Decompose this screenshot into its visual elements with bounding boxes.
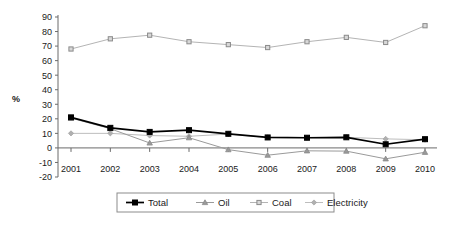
y-tick-label: -20 [39,172,52,182]
data-point-marker [133,200,138,205]
data-point-marker [305,135,310,140]
x-tick-label: 2003 [140,164,160,174]
chart-legend: TotalOilCoalElectricity [117,193,368,212]
data-point-marker [266,45,270,49]
x-tick-label: 2002 [100,164,120,174]
data-point-marker [187,40,191,44]
data-point-marker [265,135,270,140]
y-tick-label: 40 [42,85,52,95]
data-point-marker [384,40,388,44]
data-point-marker [147,129,152,134]
data-point-marker [69,47,73,51]
x-tick-label: 2006 [258,164,278,174]
x-tick-label: 2008 [336,164,356,174]
y-tick-label: 90 [42,12,52,22]
y-tick-label: 0 [47,143,52,153]
legend-label: Total [148,197,168,208]
data-point-marker [305,40,309,44]
data-point-marker [226,131,231,136]
data-point-marker [344,35,348,39]
y-tick-label: 80 [42,27,52,37]
x-tick-label: 2001 [61,164,81,174]
line-chart: 9080706050403020100-10-20 20012002200320… [0,0,449,230]
x-tick-label: 2005 [218,164,238,174]
x-tick-label: 2010 [415,164,435,174]
data-point-marker [148,33,152,37]
data-point-marker [383,142,388,147]
data-point-marker [69,115,74,120]
y-tick-label: 30 [42,100,52,110]
y-axis-title-text: % [12,94,20,104]
y-tick-label: 50 [42,71,52,81]
y-tick-label: -10 [39,158,52,168]
data-point-marker [226,43,230,47]
data-point-marker [108,37,112,41]
data-point-marker [423,24,427,28]
y-axis-title: % [12,94,20,104]
x-tick-label: 2009 [376,164,396,174]
legend-label: Coal [272,197,292,208]
y-tick-label: 20 [42,114,52,124]
legend-label: Oil [218,197,230,208]
x-tick-label: 2004 [179,164,199,174]
legend-label: Electricity [327,197,368,208]
data-point-marker [257,200,261,204]
data-point-marker [344,135,349,140]
x-tick-label: 2007 [297,164,317,174]
data-point-marker [423,137,428,142]
y-tick-label: 60 [42,56,52,66]
data-point-marker [187,128,192,133]
chart-canvas: 9080706050403020100-10-20 20012002200320… [0,0,449,230]
y-tick-label: 70 [42,41,52,51]
y-tick-label: 10 [42,129,52,139]
data-point-marker [108,125,113,130]
